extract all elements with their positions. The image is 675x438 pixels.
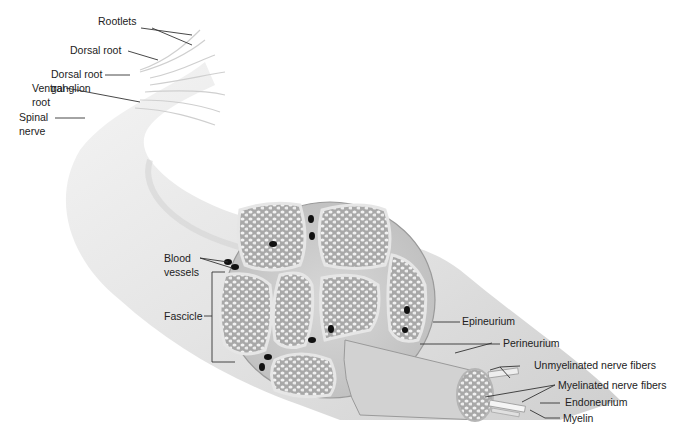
fascicle xyxy=(220,274,272,354)
fascicle xyxy=(272,354,336,397)
label-ventral-root-1: Ventral xyxy=(32,82,65,94)
label-fascicle: Fascicle xyxy=(164,310,203,322)
label-blood-vessels-1: Blood xyxy=(164,252,191,264)
label-spinal-nerve-2: nerve xyxy=(19,125,45,137)
label-spinal-nerve-1: Spinal xyxy=(19,111,48,123)
spinal-nerve-diagram: Rootlets Dorsal root Dorsal root ganglio… xyxy=(0,0,675,438)
label-dorsal-root: Dorsal root xyxy=(70,44,121,56)
label-rootlets: Rootlets xyxy=(98,15,137,27)
label-myelin: Myelin xyxy=(563,412,594,424)
fascicle xyxy=(319,205,390,269)
label-endoneurium: Endoneurium xyxy=(565,396,628,408)
fascicle xyxy=(238,203,305,270)
label-ventral-root-2: root xyxy=(32,96,50,108)
fascicle xyxy=(273,273,312,348)
label-unmyelinated-fibers: Unmyelinated nerve fibers xyxy=(534,359,656,371)
label-myelinated-fibers: Myelinated nerve fibers xyxy=(558,379,667,391)
label-perineurium: Perineurium xyxy=(503,337,560,349)
label-epineurium: Epineurium xyxy=(462,315,515,327)
label-dorsal-root-ganglion-1: Dorsal root xyxy=(51,68,102,80)
label-blood-vessels-2: vessels xyxy=(164,266,199,278)
